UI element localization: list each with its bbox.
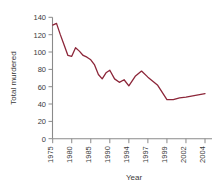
y-tick-label: 40 [38, 100, 46, 109]
y-tick-label: 140 [33, 13, 46, 22]
x-tick-label: 1994 [122, 146, 131, 163]
x-tick-label: 1999 [160, 146, 169, 163]
y-tick-labels: 140 120 100 80 60 40 20 0 [33, 13, 46, 143]
x-tick-label: 1990 [103, 146, 112, 163]
y-tick-label: 20 [38, 117, 46, 126]
x-tick-label: 1975 [46, 146, 55, 163]
x-tick-label: 1980 [65, 146, 74, 163]
y-axis-title: Total murdered [9, 51, 18, 104]
line-chart: 140 120 100 80 60 40 20 0 Total murdered… [0, 0, 221, 186]
y-tick-marks [49, 17, 53, 138]
x-tick-label: 1985 [84, 146, 93, 163]
x-axis: 197519801985199019941997199920022004 Yea… [46, 139, 212, 182]
x-tick-marks [53, 139, 205, 144]
y-tick-label: 120 [33, 31, 46, 40]
x-tick-label: 2002 [179, 146, 188, 163]
chart-container: 140 120 100 80 60 40 20 0 Total murdered… [0, 0, 221, 186]
y-tick-label: 60 [38, 83, 46, 92]
x-tick-label: 2004 [198, 146, 207, 163]
x-tick-labels: 197519801985199019941997199920022004 [46, 146, 207, 163]
x-tick-label: 1997 [141, 146, 150, 163]
x-axis-title: Year [126, 173, 143, 182]
y-tick-label: 100 [33, 48, 46, 57]
data-series-line [53, 23, 205, 99]
y-tick-label: 80 [38, 65, 46, 74]
y-axis: 140 120 100 80 60 40 20 0 Total murdered [9, 13, 53, 143]
y-tick-label: 0 [42, 135, 46, 144]
